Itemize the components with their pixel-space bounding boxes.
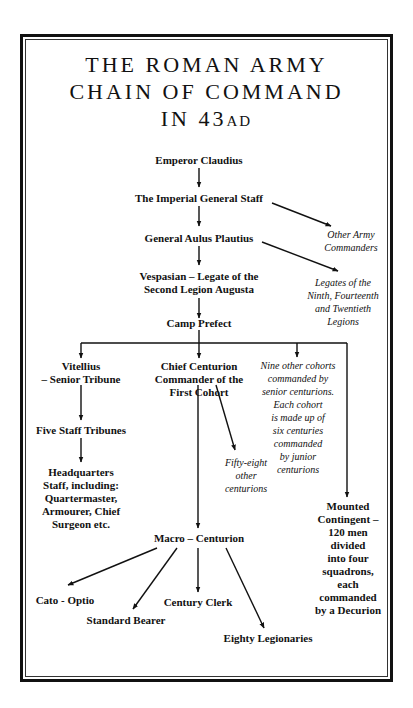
node-line: Surgeon etc. xyxy=(42,518,120,531)
node-standard-bearer: Standard Bearer xyxy=(87,614,166,627)
node-line: each xyxy=(315,578,381,591)
node-cato-optio: Cato - Optio xyxy=(36,594,95,607)
node-vespasian-line-1: Vespasian – Legate of the xyxy=(140,270,259,283)
node-line: Commander of the xyxy=(155,373,243,386)
note-line: six centuries xyxy=(261,424,336,437)
node-line: into four xyxy=(315,552,381,565)
node-macro-centurion: Macro – Centurion xyxy=(154,532,244,545)
node-general-aulus-plautius: General Aulus Plautius xyxy=(145,232,254,245)
node-century-clerk: Century Clerk xyxy=(164,596,233,609)
node-vitellius: Vitellius – Senior Tribune xyxy=(42,360,121,386)
node-line: Mounted xyxy=(315,500,381,513)
note-line: commanded by xyxy=(261,372,336,385)
note-other-army-commanders: Other Army Commanders xyxy=(324,228,377,254)
node-mounted-contingent: Mounted Contingent – 120 men divided int… xyxy=(315,500,381,617)
node-line: Contingent – xyxy=(315,513,381,526)
note-line: other xyxy=(225,469,267,482)
note-line: by junior xyxy=(261,450,336,463)
node-line: by a Decurion xyxy=(315,604,381,617)
note-line: is made up of xyxy=(261,411,336,424)
note-fifty-eight-centurions: Fifty-eight other centurions xyxy=(225,456,267,495)
node-line: 120 men xyxy=(315,526,381,539)
note-line: Other Army xyxy=(324,228,377,241)
note-line: Fifty-eight xyxy=(225,456,267,469)
node-line: – Senior Tribune xyxy=(42,373,121,386)
note-line: and Twentieth xyxy=(307,302,379,315)
note-line: senior centurions. xyxy=(261,385,336,398)
node-vespasian: Vespasian – Legate of the Second Legion … xyxy=(140,270,259,296)
node-camp-prefect: Camp Prefect xyxy=(167,317,232,330)
note-line: Ninth, Fourteenth xyxy=(307,289,379,302)
node-line: divided xyxy=(315,539,381,552)
note-line: centurions xyxy=(225,482,267,495)
node-vespasian-line-2: Second Legion Augusta xyxy=(140,283,259,296)
node-line: Armourer, Chief xyxy=(42,505,120,518)
node-line: First Cohort xyxy=(155,386,243,399)
node-five-staff-tribunes: Five Staff Tribunes xyxy=(36,424,126,437)
node-line: Chief Centurion xyxy=(155,360,243,373)
note-line: commanded xyxy=(261,437,336,450)
node-emperor-claudius: Emperor Claudius xyxy=(155,154,242,167)
node-headquarters-staff: Headquarters Staff, including: Quarterma… xyxy=(42,466,120,531)
note-line: Legions xyxy=(307,315,379,328)
note-nine-other-cohorts: Nine other cohorts commanded by senior c… xyxy=(261,359,336,476)
node-chief-centurion: Chief Centurion Commander of the First C… xyxy=(155,360,243,399)
node-line: commanded xyxy=(315,591,381,604)
note-line: Each cohort xyxy=(261,398,336,411)
note-other-legates: Legates of the Ninth, Fourteenth and Twe… xyxy=(307,276,379,328)
node-line: Headquarters xyxy=(42,466,120,479)
node-imperial-general-staff: The Imperial General Staff xyxy=(135,192,263,205)
note-line: Commanders xyxy=(324,241,377,254)
node-line: Staff, including: xyxy=(42,479,120,492)
note-line: centurions xyxy=(261,463,336,476)
node-line: squadrons, xyxy=(315,565,381,578)
node-line: Quartermaster, xyxy=(42,492,120,505)
node-eighty-legionaries: Eighty Legionaries xyxy=(224,632,313,645)
note-line: Nine other cohorts xyxy=(261,359,336,372)
node-line: Vitellius xyxy=(42,360,121,373)
note-line: Legates of the xyxy=(307,276,379,289)
